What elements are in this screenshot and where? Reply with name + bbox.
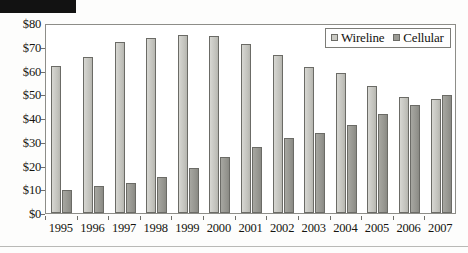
bar-group [46,23,78,213]
x-axis-tick-mark [235,216,236,220]
bar-wireline-2006 [399,97,409,213]
bar-group [394,23,426,213]
x-axis-tick-mark [203,216,204,220]
bar-group [425,23,457,213]
bar-wireline-2000 [209,36,219,213]
bar-wireline-1999 [178,35,188,213]
x-axis-tick-label: 2000 [207,221,231,236]
y-axis-tick-label: $70 [23,40,41,55]
x-axis-tick-mark [108,216,109,220]
bar-cellular-2005 [378,114,388,213]
bar-wireline-1998 [146,38,156,213]
bar-wireline-2002 [273,55,283,213]
bar-group [172,23,204,213]
legend-item-wireline: Wireline [331,31,384,44]
bar-wireline-2005 [367,86,377,213]
y-axis: $0$10$20$30$40$50$60$70$80 [0,0,41,253]
x-axis-tick-mark [77,216,78,220]
bar-cellular-2002 [284,138,294,213]
bar-cellular-1999 [189,168,199,213]
x-axis-tick-mark [361,216,362,220]
legend-swatch-icon [331,34,338,41]
y-axis-tick-mark [41,214,45,215]
y-axis-tick-label: $30 [23,135,41,150]
bar-wireline-2004 [336,73,346,213]
bar-group [362,23,394,213]
x-axis-tick-label: 2005 [365,221,389,236]
bar-cellular-1998 [157,177,167,213]
bar-group [109,23,141,213]
y-axis-tick-label: $40 [23,112,41,127]
y-axis-tick-label: $10 [23,183,41,198]
bar-group [141,23,173,213]
x-axis-tick-label: 2003 [302,221,326,236]
bar-cellular-2001 [252,147,262,214]
x-axis-tick-mark [424,216,425,220]
x-axis-tick-label: 2006 [396,221,420,236]
bar-wireline-2001 [241,44,251,213]
x-axis-tick-label: 1999 [175,221,199,236]
bar-cellular-1996 [94,186,104,213]
x-axis-tick-label: 1997 [112,221,136,236]
y-axis-tick-label: $0 [29,207,41,222]
x-axis-tick-mark [330,216,331,220]
y-axis-tick-label: $60 [23,64,41,79]
legend-item-cellular: Cellular [393,31,443,44]
bar-group [267,23,299,213]
chart-legend: WirelineCellular [325,28,451,48]
bar-wireline-1995 [51,66,61,213]
x-axis-tick-mark [393,216,394,220]
footer-divider [0,246,468,247]
bar-cellular-2006 [410,105,420,213]
bar-cellular-2003 [315,133,325,213]
bar-wireline-2003 [304,67,314,213]
legend-label: Cellular [403,31,443,44]
plot-area [45,24,456,214]
x-axis: 1995199619971998199920002001200220032004… [45,216,456,238]
chart-figure: $0$10$20$30$40$50$60$70$80 1995199619971… [0,0,468,253]
x-axis-tick-label: 1996 [80,221,104,236]
bar-cellular-2000 [220,157,230,213]
x-axis-tick-mark [298,216,299,220]
legend-swatch-icon [393,34,400,41]
bar-group [78,23,110,213]
x-axis-tick-label: 2007 [428,221,452,236]
bar-cellular-2007 [442,95,452,213]
bar-wireline-1996 [83,57,93,213]
x-axis-tick-label: 1995 [49,221,73,236]
bar-group [204,23,236,213]
x-axis-tick-mark [266,216,267,220]
x-axis-tick-mark [45,216,46,220]
x-axis-tick-label: 2004 [333,221,357,236]
y-axis-tick-label: $50 [23,88,41,103]
x-axis-tick-mark [140,216,141,220]
bar-cellular-2004 [347,125,357,213]
y-axis-tick-label: $80 [23,17,41,32]
bar-group [331,23,363,213]
bar-cellular-1997 [126,183,136,213]
bar-wireline-1997 [115,42,125,213]
x-axis-tick-label: 2001 [238,221,262,236]
bars-container [46,25,455,213]
bar-cellular-1995 [62,190,72,213]
bar-group [236,23,268,213]
bar-wireline-2007 [431,99,441,213]
x-axis-tick-label: 2002 [270,221,294,236]
legend-label: Wireline [341,31,384,44]
bar-group [299,23,331,213]
y-axis-tick-label: $20 [23,159,41,174]
x-axis-tick-mark [171,216,172,220]
x-axis-tick-label: 1998 [144,221,168,236]
